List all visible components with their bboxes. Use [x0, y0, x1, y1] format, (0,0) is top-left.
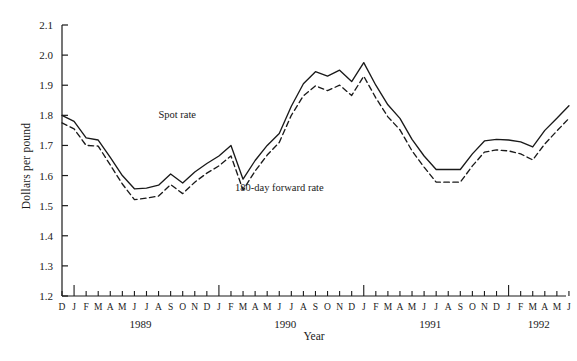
x-month-label: M — [529, 302, 538, 312]
x-month-label: D — [203, 302, 210, 312]
x-month-label: M — [118, 302, 127, 312]
x-year-label: 1991 — [419, 318, 441, 330]
x-month-label: F — [373, 302, 378, 312]
x-month-label: O — [179, 302, 186, 312]
x-month-label: D — [493, 302, 500, 312]
x-month-label: A — [252, 302, 259, 312]
x-month-label: J — [362, 302, 366, 312]
x-month-label: J — [145, 302, 149, 312]
y-tick-label: 2.0 — [39, 49, 53, 61]
x-month-label: J — [507, 302, 511, 312]
x-year-label: 1989 — [129, 318, 152, 330]
y-axis-ticks: 1.21.31.41.51.61.71.81.92.02.1 — [39, 19, 68, 302]
x-month-label: M — [384, 302, 393, 312]
x-axis-year-labels: 1989199019911992 — [129, 318, 549, 330]
x-month-label: A — [300, 302, 307, 312]
x-month-label: D — [59, 302, 66, 312]
x-month-label: M — [239, 302, 248, 312]
x-month-label: O — [469, 302, 476, 312]
y-tick-label: 1.7 — [39, 139, 53, 151]
x-month-label: S — [168, 302, 173, 312]
y-tick-label: 1.2 — [39, 290, 53, 302]
x-month-label: A — [397, 302, 404, 312]
x-month-label: O — [324, 302, 331, 312]
x-axis-ticks — [62, 285, 569, 296]
x-month-label: J — [133, 302, 137, 312]
x-month-label: J — [289, 302, 293, 312]
x-month-label: A — [541, 302, 548, 312]
x-month-label: S — [458, 302, 463, 312]
x-month-label: D — [348, 302, 355, 312]
annotation-spot-rate: Spot rate — [158, 109, 196, 120]
annotation-forward-rate: 180-day forward rate — [235, 182, 324, 193]
x-month-label: F — [228, 302, 233, 312]
x-month-label: M — [263, 302, 272, 312]
x-axis-month-labels: DJFMAMJJASONDJFMAMJJASONDJFMAMJJASONDJFM… — [59, 302, 572, 312]
series-line-spot-rate — [62, 63, 569, 189]
x-month-label: A — [155, 302, 162, 312]
y-tick-label: 1.5 — [39, 200, 53, 212]
x-month-label: N — [191, 302, 198, 312]
x-month-label: N — [336, 302, 343, 312]
x-month-label: M — [94, 302, 103, 312]
x-month-label: A — [445, 302, 452, 312]
x-month-label: F — [83, 302, 88, 312]
x-month-label: S — [313, 302, 318, 312]
x-month-label: J — [277, 302, 281, 312]
chart-canvas: 1.21.31.41.51.61.71.81.92.02.1 DJFMAMJJA… — [0, 0, 577, 361]
y-tick-label: 1.3 — [39, 260, 53, 272]
x-year-label: 1992 — [528, 318, 550, 330]
x-month-label: J — [422, 302, 426, 312]
x-year-label: 1990 — [274, 318, 297, 330]
y-tick-label: 1.4 — [39, 230, 53, 242]
x-month-label: F — [518, 302, 523, 312]
x-month-label: M — [408, 302, 417, 312]
exchange-rate-line-chart: Dollars per pound 1.21.31.41.51.61.71.81… — [0, 0, 577, 361]
x-axis-title: Year — [303, 330, 324, 342]
x-month-label: J — [434, 302, 438, 312]
x-month-label: A — [107, 302, 114, 312]
x-month-label: J — [217, 302, 221, 312]
y-tick-label: 1.8 — [39, 109, 53, 121]
x-month-label: J — [567, 302, 571, 312]
y-tick-label: 2.1 — [39, 19, 53, 31]
y-tick-label: 1.9 — [39, 79, 53, 91]
x-month-label: N — [481, 302, 488, 312]
x-month-label: M — [553, 302, 562, 312]
x-month-label: J — [72, 302, 76, 312]
y-tick-label: 1.6 — [39, 170, 53, 182]
